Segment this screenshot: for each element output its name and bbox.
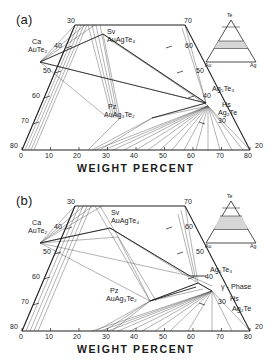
tick-r70-b: 70 (184, 198, 192, 205)
tick-x50-a: 50 (159, 152, 167, 159)
tick-x80-a: 80 (244, 152, 252, 159)
tick-x10-b: 10 (45, 333, 53, 340)
tick-l40-b: 40 (54, 223, 62, 230)
tick-r20-b: 20 (255, 323, 263, 330)
tick-r70-a: 70 (184, 17, 192, 24)
tick-r40-a: 40 (203, 92, 211, 99)
tick-r30-a: 30 (218, 117, 226, 124)
phase-formula-ca-a: AuTe₂ (28, 46, 47, 54)
tick-r50-b: 50 (196, 248, 204, 255)
tick-l50-b: 50 (43, 248, 51, 255)
tick-l70-a: 70 (21, 117, 29, 124)
panel-a-plot (0, 0, 280, 181)
tick-x60-a: 60 (187, 152, 195, 159)
tick-x60-b: 60 (187, 333, 195, 340)
tick-x70-a: 70 (216, 152, 224, 159)
panel-b-tag: (b) (16, 193, 33, 208)
tick-x0-b: 0 (19, 333, 23, 340)
phase-formula-pz-a: AuAg₃Te₂ (104, 111, 135, 119)
phase-label-gamma-b: γ - Phase (221, 283, 251, 291)
phase-label-ag5te3-a: Ag₅Te₃ (212, 85, 234, 93)
inset-triangle-a (206, 20, 256, 62)
tick-l80-b: 80 (10, 323, 18, 330)
phase-formula-sv-a: AuAgTe₄ (107, 36, 135, 44)
phase-label-hs-b: Hs (230, 295, 239, 303)
tick-l60-b: 60 (32, 273, 40, 280)
tick-l60-a: 60 (32, 92, 40, 99)
tick-x40-a: 40 (130, 152, 138, 159)
primary-tie-lines-a (40, 34, 206, 118)
inset-apex-label-a: Te (227, 12, 232, 18)
tick-r20-a: 20 (255, 142, 263, 149)
inset-left-label-b: Au (205, 243, 211, 249)
inset-right-label-b: Ag (250, 243, 256, 249)
tick-r30-b: 30 (218, 298, 226, 305)
inset-apex-label-b: Te (227, 193, 232, 199)
tick-r50-a: 50 (196, 67, 204, 74)
phase-formula-hs-b: Ag₂Te (232, 305, 251, 313)
tick-x40-b: 40 (130, 333, 138, 340)
tick-x10-a: 10 (45, 152, 53, 159)
tick-l30-b: 30 (67, 198, 75, 205)
tick-x20-a: 20 (73, 152, 81, 159)
figure-container: (a) 0 10 20 30 40 50 60 70 80 80 70 60 5… (0, 0, 280, 362)
tick-r60-b: 60 (185, 223, 193, 230)
phase-formula-ca-b: AuTe₂ (28, 227, 47, 235)
tick-x50-b: 50 (159, 333, 167, 340)
tick-x30-a: 30 (102, 152, 110, 159)
panel-a: (a) 0 10 20 30 40 50 60 70 80 80 70 60 5… (0, 0, 280, 181)
tick-r60-a: 60 (185, 42, 193, 49)
tick-x30-b: 30 (102, 333, 110, 340)
tick-l70-b: 70 (21, 298, 29, 305)
phase-formula-sv-b: AuAgTe₄ (111, 217, 139, 225)
axis-title-a: WEIGHT PERCENT (77, 162, 194, 174)
phase-formula-hs-a: Ag₂Te (218, 109, 237, 117)
panel-b-plot (0, 181, 280, 362)
tick-l80-a: 80 (10, 142, 18, 149)
phase-label-ag5te3-b: Ag₅Te₃ (210, 266, 232, 274)
inset-triangle-b (206, 201, 256, 243)
primary-tie-lines-b (40, 228, 212, 301)
tick-x0-a: 0 (19, 152, 23, 159)
panel-a-tag: (a) (16, 12, 33, 27)
tick-l40-a: 40 (54, 42, 62, 49)
tick-l30-a: 30 (67, 17, 75, 24)
phase-formula-pz-b: AuAg₃Te₂ (106, 295, 137, 303)
inset-right-label-a: Ag (250, 62, 256, 68)
tick-x80-b: 80 (244, 333, 252, 340)
axis-title-b: WEIGHT PERCENT (77, 343, 194, 355)
tick-x70-b: 70 (216, 333, 224, 340)
tick-l50-a: 50 (43, 67, 51, 74)
inset-left-label-a: Au (205, 62, 211, 68)
panel-b: (b) 0 10 20 30 40 50 60 70 80 80 70 60 5… (0, 181, 280, 362)
tick-x20-b: 20 (73, 333, 81, 340)
